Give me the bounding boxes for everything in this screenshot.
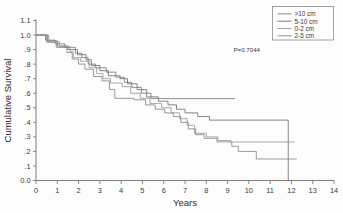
y-tick-label: .3 [24, 132, 30, 141]
y-tick-label: .9 [24, 45, 30, 54]
x-tick-label: 2 [77, 186, 81, 195]
y-tick-label: 1.1 [20, 16, 30, 25]
x-axis-title: Years [173, 197, 197, 208]
y-tick-label: .1 [24, 162, 30, 171]
legend-label: >10 cm [295, 10, 316, 17]
y-tick-label: .2 [24, 147, 30, 156]
x-tick-label: 5 [140, 186, 144, 195]
x-tick-label: 14 [330, 186, 338, 195]
y-tick-label: .6 [24, 89, 30, 98]
x-tick-label: 4 [119, 186, 123, 195]
legend-label: 2-5 cm [295, 32, 315, 39]
x-tick-label: 1 [55, 186, 59, 195]
curves-layer [36, 35, 297, 180]
y-tick-label: 0.0 [20, 176, 30, 185]
axes-layer: 0.0.1.2.3.4.5.6.7.8.91.01.10123456789101… [20, 16, 338, 194]
chart-canvas: 0.0.1.2.3.4.5.6.7.8.91.01.10123456789101… [0, 0, 343, 213]
x-tick-label: 6 [162, 186, 166, 195]
x-tick-label: 11 [266, 186, 274, 195]
x-tick-label: 7 [183, 186, 187, 195]
legend-label: 0-2 cm [295, 25, 315, 32]
x-tick-label: 10 [245, 186, 253, 195]
y-tick-label: .7 [24, 74, 30, 83]
y-axis-title: Cumulative Survival [2, 59, 13, 143]
legend-label: 5-10 cm [295, 18, 318, 25]
annotation-layer: P=0.7044 [233, 46, 260, 53]
legend-layer: >10 cm5-10 cm0-2 cm2-5 cm [273, 7, 334, 41]
y-tick-label: .5 [24, 103, 30, 112]
survival-curve [36, 35, 235, 99]
x-tick-label: 8 [204, 186, 208, 195]
y-tick-label: 1.0 [20, 31, 30, 40]
y-tick-label: .4 [24, 118, 30, 127]
x-tick-label: 0 [34, 186, 38, 195]
x-tick-label: 9 [226, 186, 230, 195]
x-tick-label: 12 [287, 186, 295, 195]
survival-chart-figure: 0.0.1.2.3.4.5.6.7.8.91.01.10123456789101… [0, 0, 343, 213]
y-tick-label: .8 [24, 60, 30, 69]
x-tick-label: 3 [98, 186, 102, 195]
p-value-annotation: P=0.7044 [233, 46, 260, 53]
x-tick-label: 13 [309, 186, 317, 195]
